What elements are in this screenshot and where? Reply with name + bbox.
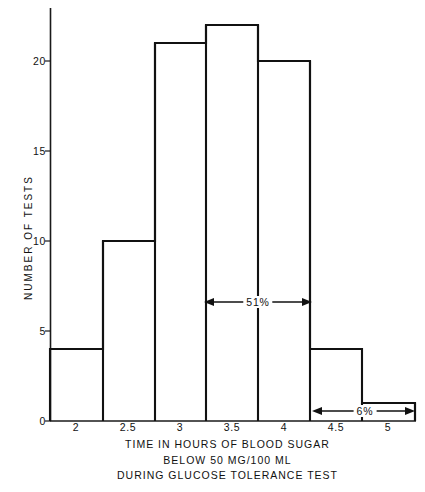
histogram-bin-dividers [103,25,415,421]
y-tick-5: 5 [16,326,46,336]
y-axis-title: NUMBER OF TESTS [23,153,34,323]
annotation-label-6-percent: 6% [354,405,377,417]
x-axis-title-line-1: TIME IN HOURS OF BLOOD SUGAR [35,437,420,453]
x-axis-title-line-2: BELOW 50 MG/100 ML [35,453,420,469]
figure-histogram: 0 5 10 15 20 2 2.5 3 3.5 4 4.5 5 51% 6% … [0,0,425,492]
x-tick-2-5: 2.5 [108,421,148,433]
x-tick-3-5: 3.5 [212,421,252,433]
x-tick-3: 3 [160,421,200,433]
x-axis-title-line-3: DURING GLUCOSE TOLERANCE TEST [35,468,420,484]
x-tick-4: 4 [264,421,304,433]
x-tick-5: 5 [368,421,408,433]
x-tick-4-5: 4.5 [316,421,356,433]
histogram-plot [0,0,425,430]
y-tick-20: 20 [16,56,46,66]
y-tick-0: 0 [16,416,46,426]
annotation-label-51-percent: 51% [243,296,272,308]
x-tick-2: 2 [56,421,96,433]
x-axis-title: TIME IN HOURS OF BLOOD SUGAR BELOW 50 MG… [35,437,420,484]
histogram-outline [50,25,415,421]
